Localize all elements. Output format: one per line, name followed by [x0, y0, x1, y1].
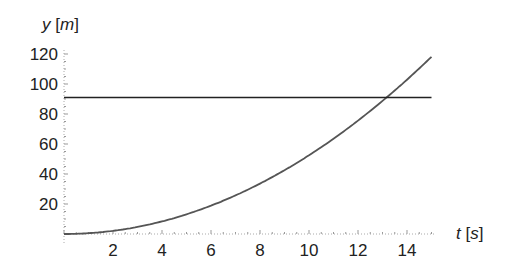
chart: 20406080100120 2468101214 y [m] t [s] [0, 0, 506, 271]
x-axis-label: t [s] [456, 224, 483, 243]
x-tick-label: 12 [349, 241, 368, 260]
x-tick-label: 10 [300, 241, 319, 260]
y-tick-label: 60 [39, 135, 58, 154]
x-tick-label: 8 [255, 241, 264, 260]
series-group [64, 57, 432, 234]
y-tick-label: 20 [39, 195, 58, 214]
y-axis-label: y [m] [41, 15, 79, 34]
position-curve-line [64, 57, 432, 234]
y-tick-label: 100 [30, 75, 58, 94]
y-tick-label: 40 [39, 165, 58, 184]
x-tick-label: 4 [157, 241, 166, 260]
x-tick-label: 6 [206, 241, 215, 260]
y-tick-label: 80 [39, 105, 58, 124]
y-tick-label: 120 [30, 45, 58, 64]
x-tick-label: 14 [398, 241, 417, 260]
y-axis-ticks: 20406080100120 [30, 45, 68, 234]
x-tick-label: 2 [108, 241, 117, 260]
